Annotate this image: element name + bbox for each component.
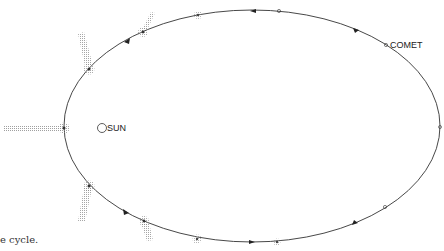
comet-tail [78, 32, 93, 66]
comet-top-left [138, 12, 155, 37]
comet-aphelion-label: COMET [384, 40, 423, 50]
comet-lower-left [78, 181, 95, 223]
comet-upper-left [78, 32, 95, 75]
comet-orbit-diagram: SUN COMET [0, 0, 444, 251]
comet-bottom-right-coma [193, 235, 202, 244]
comet-perihelion [4, 123, 70, 134]
comet-tail [4, 125, 62, 131]
arrow-top-right [353, 28, 359, 33]
comet-positions: COMET [4, 9, 442, 245]
sun-icon [98, 124, 107, 133]
direction-arrows [123, 9, 359, 244]
comet-top [194, 11, 202, 19]
arrow-bottom-left [123, 209, 129, 215]
sun: SUN [98, 123, 127, 133]
arrow-bottom [249, 240, 255, 244]
comet-tail [78, 188, 92, 222]
comet-bottom [274, 239, 281, 246]
comet-label: COMET [390, 40, 423, 50]
sun-label: SUN [107, 123, 126, 133]
comet-bottom-left [139, 216, 153, 241]
figure-caption-fragment: e cycle. [0, 234, 38, 245]
arrow-bottom-right [352, 220, 358, 225]
